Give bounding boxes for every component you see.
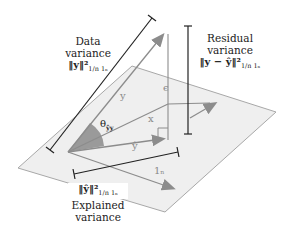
vector-epsilon-label: ϵ: [163, 82, 169, 93]
explained-variance-formula: ‖ŷ‖²1/n 1ₙ: [68, 183, 128, 199]
bracket-tick: [148, 15, 156, 21]
residual-variance-line2: variance: [190, 44, 270, 56]
subspace-plane: [18, 66, 276, 212]
data-variance-label: Data variance ‖y‖²1/n 1ₙ: [58, 35, 118, 75]
explained-variance-line1: Explained: [68, 199, 128, 211]
data-variance-line2: variance: [58, 47, 118, 59]
explained-variance-label: ‖ŷ‖²1/n 1ₙ Explained variance: [68, 183, 128, 223]
vector-y-label: y: [120, 90, 126, 101]
explained-variance-line2: variance: [68, 211, 128, 223]
residual-variance-formula: ‖y − ŷ‖²1/n 1ₙ: [190, 56, 270, 72]
data-variance-formula: ‖y‖²1/n 1ₙ: [58, 59, 118, 75]
angle-label: θŷy: [100, 118, 114, 132]
vector-ones-label: 1ₙ: [154, 165, 165, 176]
data-variance-line1: Data: [58, 35, 118, 47]
vector-y-hat-label: ŷ: [132, 140, 138, 151]
residual-variance-line1: Residual: [190, 32, 270, 44]
vector-x-label: x: [148, 113, 154, 124]
residual-variance-label: Residual variance ‖y − ŷ‖²1/n 1ₙ: [190, 32, 270, 72]
